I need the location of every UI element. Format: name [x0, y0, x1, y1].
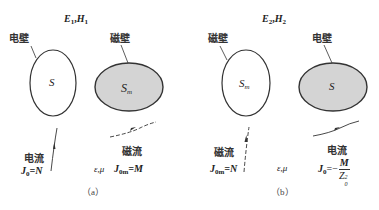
electric-wall-label-b: 电壁: [312, 34, 332, 44]
source-name-b-2: 电流: [327, 146, 347, 156]
current-line-a: [51, 128, 57, 171]
source-eq-a-2: J0m=M: [114, 164, 143, 176]
medium-label-a: ε,μ: [94, 165, 104, 174]
source-name-a-2: 磁流: [122, 147, 142, 157]
source-eq-b-1: J0m=N: [210, 164, 237, 176]
leader-line-a-left: [31, 46, 36, 58]
surface-label-b-right: S: [329, 81, 335, 92]
leader-line-b-right: [324, 45, 332, 63]
surface-label-a-left: S: [49, 77, 55, 88]
arrow-right-icon: [334, 127, 340, 131]
surface-label-a-right: Sm: [121, 82, 132, 96]
medium-label-b: ε,μ: [277, 164, 287, 173]
arrow-up-icon: [53, 142, 56, 149]
field-label-b: E2,H2: [262, 14, 286, 26]
source-name-b-1: 磁流: [214, 148, 234, 158]
source-eq-a-1: J0=N: [21, 166, 42, 178]
field-label-a: E1,H1: [64, 14, 88, 26]
caption-a: （a）: [82, 188, 104, 197]
magnetic-current-line-b: [244, 127, 249, 172]
surface-label-b-left: Sm: [239, 78, 250, 91]
leader-line-a-right: [121, 45, 128, 63]
magnetic-wall-label-a: 磁壁: [110, 34, 130, 44]
electric-wall-label-a: 电壁: [9, 34, 29, 44]
source-name-a-1: 电流: [24, 154, 44, 164]
source-eq-b-2: J0=−MZ20: [318, 158, 350, 181]
magnetic-current-line-a: [110, 122, 156, 137]
leader-line-b-left: [220, 46, 227, 60]
fraction: MZ20: [339, 158, 350, 181]
magnetic-wall-label-b: 磁壁: [208, 34, 228, 44]
caption-b: （b）: [271, 188, 294, 197]
